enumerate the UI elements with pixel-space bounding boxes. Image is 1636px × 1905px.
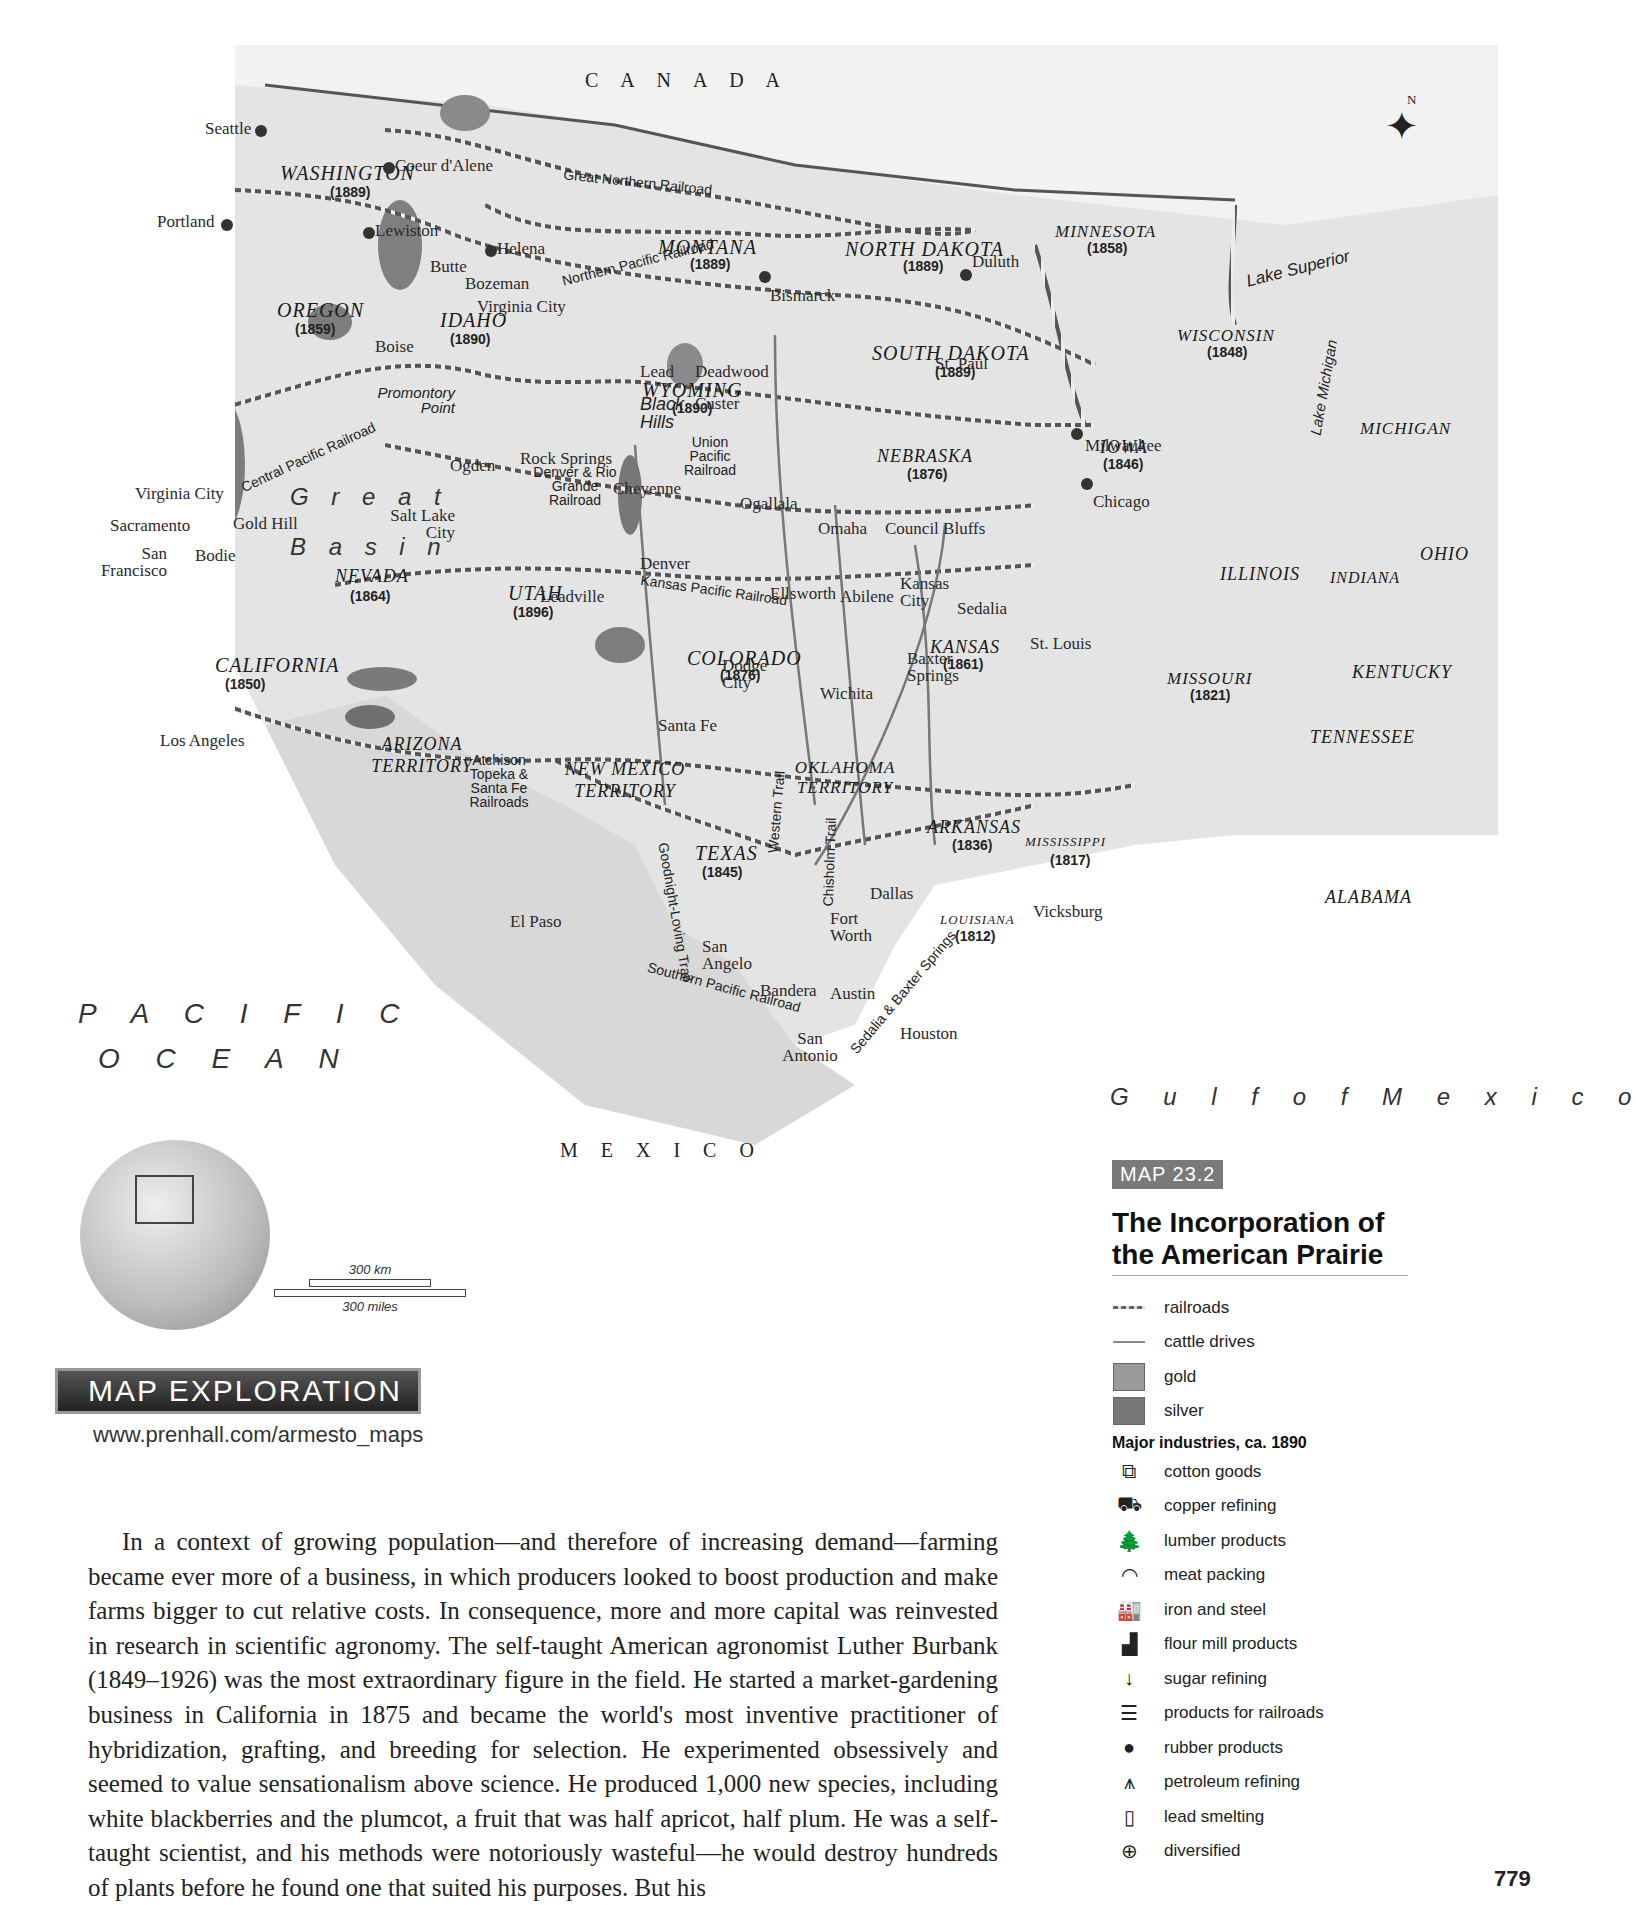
scale-miles-bar [274, 1289, 466, 1297]
label-state-missouri: MISSOURI [1167, 670, 1252, 687]
city-label-seattle: Seattle [205, 120, 251, 137]
flour-mill-icon: ▟ [1112, 1632, 1146, 1656]
city-label-butte: Butte [430, 258, 467, 275]
map-exploration: MAP EXPLORATION www.prenhall.com/armesto… [55, 1368, 423, 1448]
legend-industries-heading: Major industries, ca. 1890 [1112, 1434, 1422, 1452]
label-year-missouri: (1821) [1190, 688, 1230, 702]
label-state-tennessee: TENNESSEE [1310, 728, 1415, 746]
label-gulf-of-mexico: G u l f o f M e x i c o [1110, 1085, 1636, 1109]
city-label-custer: Custer [695, 395, 739, 412]
label-year-oregon: (1859) [295, 322, 335, 336]
label-state-mississippi: MISSISSIPPI [1025, 835, 1106, 848]
label-ocean: O C E A N [98, 1045, 353, 1073]
label-year-texas: (1845) [702, 865, 742, 879]
city-marker-chicago [1081, 478, 1093, 490]
legend-item-diversified: ⊕diversified [1112, 1834, 1422, 1869]
sugar-refining-icon: ↓ [1112, 1667, 1146, 1690]
label-state-kentucky: KENTUCKY [1352, 663, 1452, 681]
lumber-icon: 🌲 [1112, 1529, 1146, 1553]
label-state-nevada: NEVADA [335, 567, 409, 585]
legend-item-gold: gold [1112, 1359, 1422, 1394]
map-exploration-link[interactable]: www.prenhall.com/armesto_maps [93, 1422, 423, 1448]
label-state-oklahoma: OKLAHOMA TERRITORY [780, 758, 910, 798]
label-state-ohio: OHIO [1420, 545, 1469, 563]
label-denver-rio-grande-railroad: Denver & Rio Grande Railroad [530, 465, 620, 507]
compass-rose-icon: ✦ [1385, 107, 1419, 147]
legend-item-railroads: railroads [1112, 1290, 1422, 1325]
legend-item-sugar-refining: ↓sugar refining [1112, 1661, 1422, 1696]
legend-item-railroad-products: ☰products for railroads [1112, 1696, 1422, 1731]
city-label-wichita: Wichita [820, 685, 873, 702]
city-label-lead: Lead [640, 363, 674, 380]
iron-steel-icon: 🏭 [1112, 1598, 1146, 1622]
railroad-products-icon: ☰ [1112, 1701, 1146, 1725]
label-state-nebraska: NEBRASKA [877, 447, 973, 465]
label-year-california: (1850) [225, 677, 265, 691]
city-label-santa-fe: Santa Fe [658, 717, 717, 734]
city-label-ogden: Ogden [450, 457, 495, 474]
petroleum-icon: ⩚ [1112, 1771, 1146, 1794]
city-label-duluth: Duluth [972, 253, 1019, 270]
city-marker-helena [485, 245, 497, 257]
scale-miles-label: 300 miles [270, 1299, 470, 1314]
city-label-san-angelo: San Angelo [702, 938, 752, 972]
meat-packing-icon: ◠ [1112, 1563, 1146, 1587]
city-label-virginia-city-mt: Virginia City [477, 298, 566, 315]
label-year-idaho: (1890) [450, 332, 490, 346]
label-state-michigan: MICHIGAN [1360, 420, 1451, 437]
city-label-sacramento: Sacramento [110, 517, 190, 534]
city-label-st-paul: St. Paul [935, 355, 988, 372]
legend-item-cattle-drives: cattle drives [1112, 1325, 1422, 1360]
city-label-milwaukee: Milwaukee [1085, 437, 1161, 454]
rubber-icon: ● [1112, 1736, 1146, 1759]
label-promontory-point: Promontory Point [365, 385, 455, 415]
map-legend: MAP 23.2 The Incorporation of the Americ… [1112, 1160, 1422, 1868]
city-label-rock-springs: Rock Springs [520, 450, 612, 467]
city-marker-coeur-dalene [383, 162, 395, 174]
legend-item-iron-steel: 🏭iron and steel [1112, 1592, 1422, 1627]
city-marker-bismarck [759, 271, 771, 283]
label-year-nebraska: (1876) [907, 467, 947, 481]
locator-box [135, 1175, 194, 1224]
cotton-goods-icon: ⧉ [1112, 1460, 1146, 1483]
city-label-bozeman: Bozeman [465, 275, 529, 292]
copper-refining-icon: ⛟ [1112, 1493, 1146, 1519]
city-label-austin: Austin [830, 985, 875, 1002]
label-year-montana: (1889) [690, 257, 730, 271]
label-year-washington: (1889) [330, 185, 370, 199]
label-canada: C A N A D A [585, 70, 789, 90]
label-state-alabama: ALABAMA [1325, 888, 1412, 906]
label-state-illinois: ILLINOIS [1220, 565, 1300, 583]
city-label-coeur-dalene: Coeur d'Alene [395, 157, 493, 174]
lead-smelting-icon: ▯ [1112, 1805, 1146, 1829]
railroad-line-icon [1113, 1306, 1145, 1309]
cattle-drive-line-icon [1113, 1341, 1145, 1343]
label-year-utah: (1896) [513, 605, 553, 619]
city-label-san-francisco: San Francisco [87, 545, 167, 579]
legend-title: The Incorporation of the American Prairi… [1112, 1207, 1408, 1276]
city-label-bodie: Bodie [195, 547, 236, 564]
legend-list: railroads cattle drives gold silver [1112, 1290, 1422, 1428]
city-label-chicago: Chicago [1093, 493, 1150, 510]
label-year-mississippi: (1817) [1050, 853, 1090, 867]
label-state-california: CALIFORNIA [215, 655, 339, 675]
city-label-dodge-city: Dodge City [722, 657, 772, 691]
city-label-fort-worth: Fort Worth [830, 910, 870, 944]
label-year-iowa: (1846) [1103, 457, 1143, 471]
city-label-vicksburg: Vicksburg [1033, 903, 1103, 920]
city-marker-seattle [255, 125, 267, 137]
city-label-omaha: Omaha [818, 520, 867, 537]
city-label-houston: Houston [900, 1025, 958, 1042]
gold-swatch-icon [1113, 1363, 1145, 1391]
page-number: 779 [1494, 1866, 1534, 1892]
city-label-ellsworth: Ellsworth [770, 585, 836, 602]
label-year-wisconsin: (1848) [1207, 345, 1247, 359]
label-year-minnesota: (1858) [1087, 241, 1127, 255]
silver-swatch-icon [1113, 1397, 1145, 1425]
city-label-kansas-city: Kansas City [900, 575, 950, 609]
scale-km-label: 300 km [270, 1262, 470, 1277]
legend-item-copper-refining: ⛟copper refining [1112, 1489, 1422, 1524]
city-label-denver: Denver [640, 555, 690, 572]
city-marker-duluth [960, 269, 972, 281]
label-state-texas: TEXAS [695, 843, 758, 863]
